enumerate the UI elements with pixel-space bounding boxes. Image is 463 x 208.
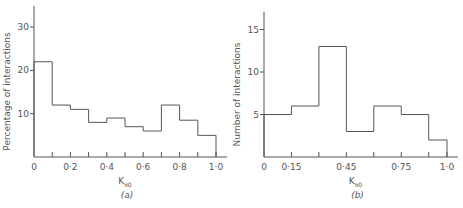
y-tick-label: 15 [248,25,259,35]
chart-panel-b: 00·150·450·751·051015Number of interacti… [232,12,458,200]
x-axis-label: Kπ0 [118,176,132,188]
histogram-bars [34,62,216,157]
x-tick-label: 0 [261,162,267,172]
x-tick-label: 0·2 [63,162,77,172]
x-tick-label: 0·45 [336,162,356,172]
y-tick-label: 30 [18,22,30,32]
x-tick-label: 1·0 [209,162,224,172]
y-axis-label: Number of interactions [232,42,242,146]
y-axis-label: Percentage of interactions [2,32,12,151]
histogram-bars [264,47,447,158]
y-tick-label: 10 [248,67,260,77]
x-axis-label: Kπ0 [349,176,363,188]
x-tick-label: 1·0 [440,162,455,172]
x-tick-label: 0·75 [391,162,411,172]
histogram-figure: 00·20·40·60·81·0102030Percentage of inte… [0,0,463,208]
x-tick-label: 0·6 [136,162,151,172]
y-tick-label: 10 [18,109,30,119]
x-tick-label: 0·15 [281,162,301,172]
panel-caption: (a) [121,190,134,200]
y-tick-label: 5 [253,110,259,120]
y-tick-label: 20 [18,65,30,75]
panel-caption: (b) [351,190,364,200]
x-tick-label: 0·8 [172,162,187,172]
x-tick-label: 0 [31,162,37,172]
chart-panel-a: 00·20·40·60·81·0102030Percentage of inte… [2,6,227,200]
x-tick-label: 0·4 [100,162,115,172]
